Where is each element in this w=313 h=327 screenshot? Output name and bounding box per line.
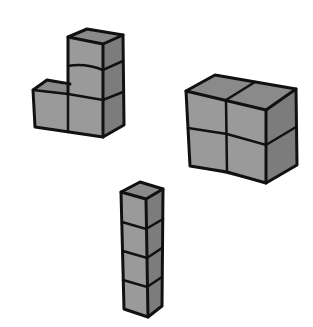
- two-by-two-block: [186, 75, 297, 183]
- l-shape-blocks: [33, 29, 124, 137]
- four-cube-tower: [121, 182, 163, 317]
- cube-shapes-figure: [0, 0, 313, 327]
- figure-svg: [0, 0, 313, 327]
